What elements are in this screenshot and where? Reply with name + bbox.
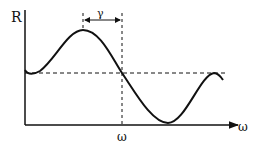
marker-label: ω bbox=[117, 130, 127, 144]
y-axis-label: R bbox=[11, 9, 22, 25]
response-curve bbox=[25, 30, 223, 123]
diagram-canvas: R ω ω γ bbox=[0, 0, 257, 147]
x-axis-label: ω bbox=[238, 120, 248, 134]
interval-label: γ bbox=[97, 7, 104, 20]
